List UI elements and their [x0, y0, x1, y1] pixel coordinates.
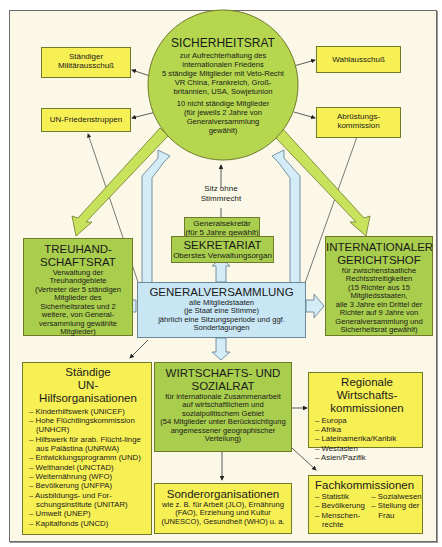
wahlausschuss-label: Wahlausschuß	[317, 56, 400, 65]
fach-list-col2: Sozialwesen Stellung der Frau	[371, 492, 422, 529]
abruestung-box: Abrüstungs- kommission	[316, 107, 401, 138]
wirtschaftsrat-title: SOZIALRAT	[155, 380, 291, 393]
militaerausschuss-box: Ständiger Militärausschuß	[41, 47, 131, 78]
sekretariat-sub: Oberstes Verwaltungsorgan	[172, 252, 273, 261]
treuhand-title: SCHAFTSRAT	[24, 256, 132, 269]
wirtschaftsrat-box: WIRTSCHAFTS- UND SOZIALRAT für internati…	[154, 362, 292, 452]
list-item: Europa	[315, 416, 419, 425]
regional-box: Regionale Wirtschafts- kommissionen Euro…	[308, 372, 423, 448]
hilfsorg-list: Kinderhilfswerk (UNICEF) Hohe Flüchtling…	[29, 407, 147, 528]
list-item: Statistik	[315, 492, 365, 501]
fachkommissionen-box: Fachkommissionen Statistik Bevölkerung M…	[308, 475, 423, 534]
sekretariat-title: SEKRETARIAT	[172, 239, 273, 252]
list-item: Ausbildungs- und For-schungsinstitute (U…	[29, 491, 147, 510]
sicherheitsrat: SICHERHEITSRAT zur Aufrechterhaltung des…	[150, 36, 296, 136]
list-item: Westasien	[315, 444, 419, 453]
friedenstruppen-label: UN-Friedenstruppen	[42, 116, 130, 125]
list-item: Entwicklungsprogramm (UND)	[29, 453, 147, 462]
regional-title: kommissionen	[315, 402, 419, 415]
sitz-ohne-stimmrecht-label: Sitz ohne Stimmrecht	[190, 184, 252, 203]
generalversammlung-text: Sondertagungen	[138, 324, 305, 333]
fachkommissionen-title: Fachkommissionen	[315, 479, 419, 492]
wirtschaftsrat-title: WIRTSCHAFTS- UND	[155, 367, 291, 380]
regional-list: Europa Afrika Lateinamerika/Karibik West…	[315, 416, 419, 463]
sicherheitsrat-text: britannien, USA, Sowjetunion	[150, 88, 296, 97]
list-item: Kinderhilfswerk (UNICEF)	[29, 407, 147, 416]
sicherheitsrat-text: gewählt)	[150, 127, 296, 136]
wahlausschuss-box: Wahlausschuß	[316, 46, 401, 73]
abruestung-label: kommission	[317, 122, 400, 131]
treuhand-text: Mitglieder)	[24, 328, 132, 337]
regional-title: Regionale Wirtschafts-	[315, 376, 419, 402]
list-item: Lateinamerika/Karibik	[315, 434, 419, 443]
sicherheitsrat-title: SICHERHEITSRAT	[150, 36, 296, 50]
hilfsorg-title: UN-Hilfsorganisationen	[29, 379, 147, 405]
list-item: Sozialwesen	[371, 492, 422, 501]
treuhand-title: TREUHAND-	[24, 243, 132, 256]
list-item: Bevölkerung	[315, 501, 365, 510]
list-item: Umwelt (UNEP)	[29, 509, 147, 518]
list-item: Welthandel (UNCTAD)	[29, 463, 147, 472]
list-item: Bevölkerung (UNFPA)	[29, 481, 147, 490]
gerichtshof-title: GERICHTSHOF	[326, 254, 432, 267]
list-item: Afrika	[315, 425, 419, 434]
hilfsorganisationen-box: Ständige UN-Hilfsorganisationen Kinderhi…	[22, 362, 152, 535]
sitz-label-text: Sitz ohne	[190, 184, 252, 194]
gerichtshof-title: INTERNATIONALER	[326, 241, 432, 254]
list-item: Menschen-rechte	[315, 511, 365, 530]
list-item: Welternährung (WFO)	[29, 472, 147, 481]
wirtschaftsrat-text: Verteilung)	[155, 435, 291, 444]
list-item: Stellung der Frau	[371, 501, 422, 520]
sonderorg-title: Sonderorganisationen	[155, 488, 291, 501]
generalversammlung-title: GENERALVERSAMMLUNG	[138, 286, 305, 299]
treuhandschaftsrat-box: TREUHAND- SCHAFTSRAT Verwaltung der Treu…	[23, 238, 133, 336]
list-item: Hohe Flüchtlingskommission (UNHCR)	[29, 416, 147, 435]
gerichtshof-box: INTERNATIONALER GERICHTSHOF für zwischen…	[325, 236, 433, 336]
sekretariat-box: SEKRETARIAT Oberstes Verwaltungsorgan	[171, 236, 274, 263]
list-item: Asien/Pazifik	[315, 453, 419, 462]
list-item: Kapitalfonds (UNCD)	[29, 519, 147, 528]
sonderorg-text: (UNESCO), Gesundheit (WHO) u. a.	[155, 518, 291, 527]
gerichtshof-text: Sicherheitsrat gewählt)	[326, 326, 432, 335]
sonderorganisationen-box: Sonderorganisationen wie z. B. für Arbei…	[154, 483, 292, 534]
militaerausschuss-label: Militärausschuß	[42, 62, 130, 71]
list-item: Hilfswerk für arab. Flücht-linge aus Pal…	[29, 435, 147, 454]
generalversammlung-box: GENERALVERSAMMLUNG alle Mitgliedstaaten …	[137, 282, 306, 338]
hilfsorg-title: Ständige	[29, 366, 147, 379]
fach-list-col1: Statistik Bevölkerung Menschen-rechte	[315, 492, 365, 529]
sitz-label-text: Stimmrecht	[190, 194, 252, 204]
friedenstruppen-box: UN-Friedenstruppen	[41, 108, 131, 132]
